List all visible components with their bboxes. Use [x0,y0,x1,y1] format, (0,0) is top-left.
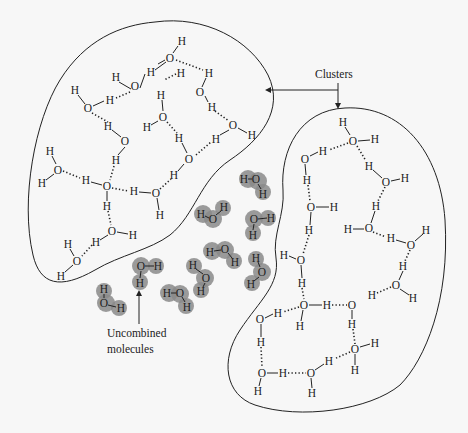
cluster-hydrogen-atom: H [157,89,165,101]
free-oxygen-atom: O [100,297,108,309]
cluster-hydrogen-atom: H [422,224,430,236]
free-oxygen-atom: O [221,243,229,255]
free-hydrogen-atom: H [240,173,248,185]
clusters-label: Clusters [315,68,353,80]
cluster-hydrogen-atom: H [170,169,178,181]
cluster-hydrogen-atom: H [330,201,338,213]
free-hydrogen-atom: H [220,201,228,213]
diagram-canvas: Clusters Uncombined molecules [0,0,468,433]
cluster-hydrogen-atom: H [46,145,54,157]
free-hydrogen-atom: H [163,287,171,299]
cluster-hydrogen-atom: H [399,260,407,272]
cluster-oxygen-atom: O [166,52,174,64]
cluster-hydrogen-atom: H [305,224,313,236]
cluster-oxygen-atom: O [103,180,111,192]
cluster-hydrogen-atom: H [156,209,164,221]
arrowhead-icon [136,290,142,296]
cluster-hydrogen-atom: H [323,299,331,311]
cluster-hydrogen-atom: H [308,387,316,399]
free-hydrogen-atom: H [267,212,275,224]
cluster-hydrogen-atom: H [208,101,216,113]
cluster-hydrogen-atom: H [303,174,311,186]
cluster-hydrogen-atom: H [212,133,220,145]
cluster-hydrogen-atom: H [177,67,185,79]
cluster-hydrogen-atom: H [387,232,395,244]
arrowhead-icon [265,87,271,93]
cluster-hydrogen-atom: H [365,160,373,172]
cluster-hydrogen-atom: H [257,336,265,348]
cluster-oxygen-atom: O [365,222,373,234]
cluster-hydrogen-atom: H [351,364,359,376]
cluster-oxygen-atom: O [54,164,62,176]
free-oxygen-atom: O [258,266,266,278]
free-hydrogen-atom: H [249,229,257,241]
free-oxygen-atom: O [209,213,217,225]
cluster-hydrogen-atom: H [371,337,379,349]
cluster-hydrogen-atom: H [143,121,151,133]
cluster-oxygen-atom: O [392,279,400,291]
cluster-hydrogen-atom: H [129,229,137,241]
cluster-hydrogen-atom: H [64,238,72,250]
cluster-hydrogen-atom: H [401,172,409,184]
cluster-oxygen-atom: O [121,135,129,147]
free-molecule-halos [96,170,276,316]
cluster-hydrogen-atom: H [254,385,262,397]
cluster-hydrogen-atom: H [296,320,304,332]
cluster-oxygen-atom: O [159,111,167,123]
cluster-hydrogen-atom: H [319,145,327,157]
free-oxygen-atom: O [250,213,258,225]
cluster-hydrogen-atom: H [371,133,379,145]
free-hydrogen-atom: H [197,285,205,297]
cluster-hydrogen-atom: H [368,289,376,301]
free-hydrogen-atom: H [252,252,260,264]
uncombined-label-line2: molecules [107,343,154,355]
right-cluster-atoms: HOHHOHHOHOHHHOHHHOHOHHOHHOHOHHHOHHOHHOHO… [254,116,430,399]
cluster-hydrogen-atom: H [112,154,120,166]
cluster-oxygen-atom: O [84,102,92,114]
cluster-hydrogen-atom: H [147,66,155,78]
cluster-oxygen-atom: O [196,86,204,98]
cluster-oxygen-atom: O [301,153,309,165]
free-oxygen-atom: O [176,287,184,299]
cluster-hydrogen-atom: H [409,292,417,304]
free-hydrogen-atom: H [247,278,255,290]
free-hydrogen-atom: H [117,302,125,314]
cluster-oxygen-atom: O [297,254,305,266]
cluster-hydrogen-atom: H [339,116,347,128]
cluster-hydrogen-atom: H [92,236,100,248]
free-oxygen-atom: O [137,260,145,272]
cluster-hydrogen-atom: H [248,129,256,141]
free-hydrogen-atom: H [259,188,267,200]
cluster-hydrogen-atom: H [205,67,213,79]
cluster-oxygen-atom: O [349,135,357,147]
cluster-hydrogen-atom: H [38,177,46,189]
cluster-hydrogen-atom: H [325,355,333,367]
cluster-hydrogen-atom: H [112,71,120,83]
uncombined-label-line1: Uncombined [107,327,167,339]
free-hydrogen-atom: H [100,283,108,295]
free-oxygen-atom: O [202,272,210,284]
cluster-hydrogen-atom: H [178,35,186,47]
cluster-oxygen-atom: O [229,119,237,131]
cluster-hydrogen-atom: H [82,174,90,186]
cluster-oxygen-atom: O [152,187,160,199]
cluster-oxygen-atom: O [307,201,315,213]
cluster-oxygen-atom: O [73,255,81,267]
cluster-hydrogen-atom: H [103,200,111,212]
free-hydrogen-atom: H [206,246,214,258]
left-cluster-bonds [46,46,247,272]
cluster-oxygen-atom: O [351,343,359,355]
cluster-oxygen-atom: O [300,299,308,311]
cluster-oxygen-atom: O [256,313,264,325]
free-oxygen-atom: O [252,173,260,185]
cluster-oxygen-atom: O [382,176,390,188]
cluster-oxygen-atom: O [258,367,266,379]
cluster-hydrogen-atom: H [348,318,356,330]
cluster-hydrogen-atom: H [274,307,282,319]
cluster-oxygen-atom: O [307,367,315,379]
cluster-oxygen-atom: O [407,239,415,251]
cluster-oxygen-atom: O [348,299,356,311]
free-hydrogen-atom: H [183,301,191,313]
free-hydrogen-atom: H [197,208,205,220]
cluster-hydrogen-atom: H [279,367,287,379]
